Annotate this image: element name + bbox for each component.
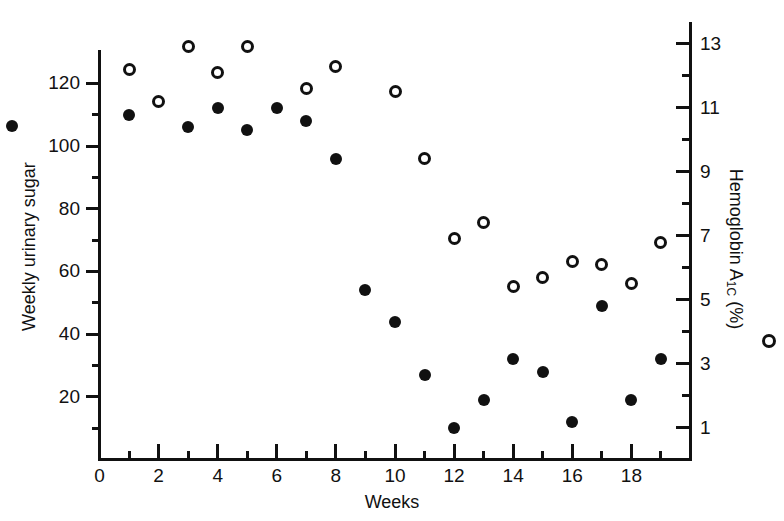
y-right-tick-label: 9 bbox=[700, 162, 740, 181]
y-left-tick-minor bbox=[92, 301, 100, 304]
y-left-tick-label: 40 bbox=[28, 324, 80, 343]
x-tick-major bbox=[453, 444, 456, 459]
data-point-filled-circle bbox=[359, 284, 371, 296]
y-right-tick-minor bbox=[682, 330, 690, 333]
x-tick-major bbox=[394, 444, 397, 459]
x-tick-major bbox=[157, 444, 160, 459]
x-tick-minor bbox=[600, 451, 603, 459]
x-tick-minor bbox=[423, 451, 426, 459]
data-point-open-circle bbox=[448, 232, 461, 245]
data-point-open-circle bbox=[123, 63, 136, 76]
y-left-tick-major bbox=[86, 145, 100, 148]
x-tick-minor bbox=[187, 451, 190, 459]
data-point-filled-circle bbox=[123, 109, 135, 121]
data-point-open-circle bbox=[329, 60, 342, 73]
x-tick-minor bbox=[482, 451, 485, 459]
y-left-tick-label: 60 bbox=[28, 261, 80, 280]
y-axis-left-line bbox=[98, 50, 101, 460]
x-tick-major bbox=[334, 444, 337, 459]
data-point-filled-circle bbox=[271, 102, 283, 114]
data-point-open-circle bbox=[536, 271, 549, 284]
data-point-open-circle bbox=[300, 82, 313, 95]
x-tick-major bbox=[630, 444, 633, 459]
y-right-tick-label: 13 bbox=[700, 34, 740, 53]
y-left-tick-label: 120 bbox=[28, 73, 80, 92]
data-point-filled-circle bbox=[330, 153, 342, 165]
y-right-tick-label: 5 bbox=[700, 290, 740, 309]
y-right-tick-minor bbox=[682, 202, 690, 205]
data-point-filled-circle bbox=[419, 369, 431, 381]
x-tick-minor bbox=[659, 451, 662, 459]
legend-open-circle-icon bbox=[762, 334, 776, 348]
data-point-filled-circle bbox=[625, 394, 637, 406]
x-tick-label: 2 bbox=[139, 466, 179, 485]
x-tick-label-origin: 0 bbox=[80, 466, 120, 485]
y-right-tick-major bbox=[676, 42, 690, 45]
data-point-open-circle bbox=[211, 66, 224, 79]
data-point-open-circle bbox=[654, 236, 667, 249]
x-tick-minor bbox=[364, 451, 367, 459]
y-left-tick-minor bbox=[92, 239, 100, 242]
y-right-tick-minor bbox=[682, 266, 690, 269]
x-tick-minor bbox=[128, 451, 131, 459]
y-right-tick-major bbox=[676, 362, 690, 365]
y-right-tick-major bbox=[676, 298, 690, 301]
x-tick-major bbox=[512, 444, 515, 459]
data-point-open-circle bbox=[625, 277, 638, 290]
data-point-open-circle bbox=[418, 152, 431, 165]
x-tick-label: 18 bbox=[611, 466, 651, 485]
x-tick-major bbox=[216, 444, 219, 459]
y-right-tick-label: 1 bbox=[700, 418, 740, 437]
data-point-open-circle bbox=[152, 95, 165, 108]
data-point-open-circle bbox=[182, 40, 195, 53]
y-right-tick-major bbox=[676, 170, 690, 173]
x-tick-label: 8 bbox=[316, 466, 356, 485]
data-point-filled-circle bbox=[212, 102, 224, 114]
x-tick-label: 10 bbox=[375, 466, 415, 485]
x-tick-major bbox=[571, 444, 574, 459]
data-point-filled-circle bbox=[241, 124, 253, 136]
y-left-tick-label: 100 bbox=[28, 136, 80, 155]
y-left-tick-minor bbox=[92, 113, 100, 116]
y-left-tick-major bbox=[86, 395, 100, 398]
y-right-tick-minor bbox=[682, 138, 690, 141]
data-point-open-circle bbox=[566, 255, 579, 268]
data-point-filled-circle bbox=[507, 353, 519, 365]
data-point-filled-circle bbox=[655, 353, 667, 365]
y-left-tick-minor bbox=[92, 364, 100, 367]
y-right-tick-minor bbox=[682, 74, 690, 77]
data-point-filled-circle bbox=[537, 366, 549, 378]
data-point-open-circle bbox=[241, 40, 254, 53]
legend-filled-circle-icon bbox=[6, 120, 18, 132]
y-right-tick-major bbox=[676, 234, 690, 237]
data-point-open-circle bbox=[595, 258, 608, 271]
y-left-tick-major bbox=[86, 270, 100, 273]
y-left-tick-label: 20 bbox=[28, 387, 80, 406]
x-tick-label: 4 bbox=[198, 466, 238, 485]
data-point-open-circle bbox=[507, 280, 520, 293]
data-point-filled-circle bbox=[566, 416, 578, 428]
data-point-filled-circle bbox=[478, 394, 490, 406]
y-right-tick-label: 7 bbox=[700, 226, 740, 245]
y-left-tick-minor bbox=[92, 427, 100, 430]
y-left-tick-minor bbox=[92, 176, 100, 179]
y-right-tick-major bbox=[676, 426, 690, 429]
x-tick-label: 6 bbox=[257, 466, 297, 485]
data-point-filled-circle bbox=[300, 115, 312, 127]
y-right-tick-label: 11 bbox=[700, 98, 740, 117]
data-point-filled-circle bbox=[448, 422, 460, 434]
x-tick-minor bbox=[246, 451, 249, 459]
x-tick-major bbox=[275, 444, 278, 459]
x-tick-minor bbox=[305, 451, 308, 459]
data-point-open-circle bbox=[477, 216, 490, 229]
data-point-filled-circle bbox=[389, 316, 401, 328]
y-left-tick-major bbox=[86, 82, 100, 85]
data-point-open-circle bbox=[389, 85, 402, 98]
y-right-tick-label: 3 bbox=[700, 354, 740, 373]
x-tick-minor bbox=[541, 451, 544, 459]
x-tick-label: 14 bbox=[493, 466, 533, 485]
data-point-filled-circle bbox=[182, 121, 194, 133]
x-tick-label: 16 bbox=[552, 466, 592, 485]
y-left-tick-major bbox=[86, 333, 100, 336]
y-right-tick-minor bbox=[682, 394, 690, 397]
